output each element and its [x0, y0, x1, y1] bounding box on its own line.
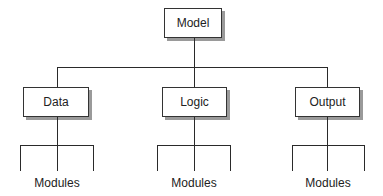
logic-module-leg-2 — [194, 145, 195, 171]
logic-drop-connector — [194, 67, 195, 87]
output-module-leg-3 — [364, 145, 365, 171]
output-module-leg-1 — [292, 145, 293, 171]
logic-modules-label: Modules — [154, 176, 234, 190]
output-label: Output — [309, 95, 345, 109]
data-label: Data — [43, 95, 68, 109]
root-stem-connector — [194, 38, 195, 67]
data-module-leg-2 — [57, 145, 58, 171]
logic-label: Logic — [180, 95, 209, 109]
top-bus-connector — [57, 67, 328, 68]
logic-module-leg-1 — [157, 145, 158, 171]
data-module-leg-3 — [93, 145, 94, 171]
output-modules-label: Modules — [288, 176, 368, 190]
data-module-leg-1 — [20, 145, 21, 171]
data-node: Data — [23, 87, 89, 117]
data-stem-connector — [57, 117, 58, 145]
output-stem-connector — [327, 117, 328, 145]
logic-node: Logic — [162, 87, 227, 117]
output-node: Output — [295, 87, 360, 117]
model-node: Model — [164, 8, 222, 38]
output-modules-bus — [292, 145, 365, 146]
data-modules-label: Modules — [17, 176, 97, 190]
data-drop-connector — [57, 67, 58, 87]
logic-module-leg-3 — [230, 145, 231, 171]
model-label: Model — [177, 16, 210, 30]
output-drop-connector — [327, 67, 328, 87]
output-module-leg-2 — [327, 145, 328, 171]
logic-stem-connector — [194, 117, 195, 145]
